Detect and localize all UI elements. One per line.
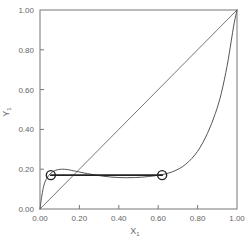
y-tick-label: 0.60 <box>18 86 34 95</box>
y-tick-label: 0.40 <box>18 125 34 134</box>
y-tick-label: 0.80 <box>18 46 34 55</box>
x-axis-label: X1 <box>130 226 140 237</box>
x-tick-label: 0.60 <box>150 214 166 223</box>
y-tick-label: 1.00 <box>18 6 34 15</box>
xy-equilibrium-chart: 0.000.200.400.600.801.00 0.000.200.400.6… <box>0 0 251 242</box>
diagonal-line <box>40 10 237 209</box>
right-phase-point-marker <box>158 171 167 180</box>
x-tick-label: 0.80 <box>190 214 206 223</box>
y-axis-label: Y1 <box>1 107 12 117</box>
x-tick-label: 0.00 <box>32 214 48 223</box>
x-tick-label: 1.00 <box>229 214 245 223</box>
x-axis-ticks: 0.000.200.400.600.801.00 <box>32 205 245 223</box>
y-tick-label: 0.00 <box>18 205 34 214</box>
series-layer <box>40 10 237 209</box>
x-tick-label: 0.20 <box>72 214 88 223</box>
x-tick-label: 0.40 <box>111 214 127 223</box>
left-phase-point-marker <box>46 171 55 180</box>
y-tick-label: 0.20 <box>18 165 34 174</box>
